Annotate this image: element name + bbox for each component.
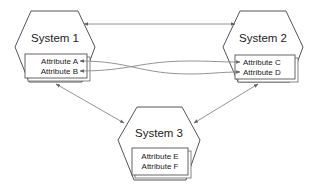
attribute-b: Attribute B xyxy=(41,67,78,76)
attribute-d: Attribute D xyxy=(243,68,281,77)
system-3-title: System 3 xyxy=(135,127,183,139)
attribute-f: Attribute F xyxy=(142,162,179,171)
system-1-title: System 1 xyxy=(31,32,79,44)
attribute-c: Attribute C xyxy=(243,58,281,67)
system-2-node[interactable]: System 2 Attribute C Attribute D xyxy=(223,11,303,82)
connector-system1-system3[interactable] xyxy=(56,84,124,123)
connector-system2-system3[interactable] xyxy=(194,84,258,123)
system-3-node[interactable]: System 3 Attribute E Attribute F xyxy=(118,107,200,180)
attribute-e: Attribute E xyxy=(141,152,178,161)
system-2-title: System 2 xyxy=(239,32,287,44)
attribute-a: Attribute A xyxy=(41,57,79,66)
diagram-canvas: System 1 Attribute A Attribute B System … xyxy=(0,0,315,191)
